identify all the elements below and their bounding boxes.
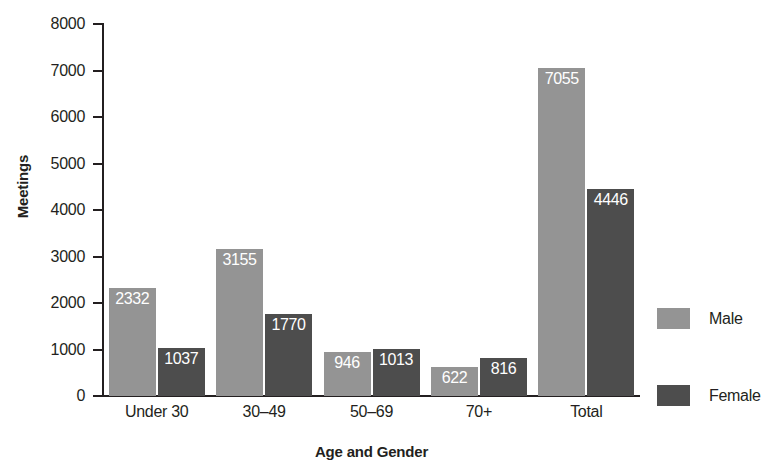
y-axis-tick bbox=[93, 302, 103, 304]
bar-value-label: 3155 bbox=[216, 251, 263, 268]
plot-area: 2332103731551770946101362281670554446 bbox=[103, 24, 640, 396]
bar: 2332 bbox=[109, 288, 156, 396]
x-axis-category-label: 30–49 bbox=[204, 403, 324, 421]
legend-item: Female bbox=[657, 385, 761, 406]
y-axis-tick bbox=[93, 23, 103, 25]
x-axis-title: Age and Gender bbox=[103, 443, 640, 460]
bar-value-label: 1013 bbox=[373, 351, 420, 368]
y-axis-tick-label: 6000 bbox=[5, 109, 85, 125]
y-axis-tick bbox=[93, 395, 103, 397]
y-axis-tick bbox=[93, 116, 103, 118]
y-axis-tick-label: 1000 bbox=[5, 342, 85, 358]
x-axis-category-label: 50–69 bbox=[312, 403, 432, 421]
x-axis-category-label: 70+ bbox=[419, 403, 539, 421]
bar: 7055 bbox=[538, 68, 585, 396]
bar-value-label: 816 bbox=[480, 360, 527, 377]
y-axis-tick bbox=[93, 349, 103, 351]
legend-swatch bbox=[657, 308, 690, 329]
bar: 622 bbox=[431, 367, 478, 396]
bar-value-label: 2332 bbox=[109, 290, 156, 307]
bar-chart: Meetings Age and Gender 0100020003000400… bbox=[0, 0, 763, 471]
bar: 816 bbox=[480, 358, 527, 396]
y-axis-tick-label: 8000 bbox=[5, 16, 85, 32]
y-axis-tick-label: 7000 bbox=[5, 63, 85, 79]
bar: 946 bbox=[324, 352, 371, 396]
y-axis-title: Meetings bbox=[14, 137, 31, 237]
bar: 1037 bbox=[158, 348, 205, 396]
bar: 4446 bbox=[587, 189, 634, 396]
bar-value-label: 1037 bbox=[158, 350, 205, 367]
x-axis-category-label: Under 30 bbox=[97, 403, 217, 421]
y-axis-tick-label: 3000 bbox=[5, 249, 85, 265]
legend-item: Male bbox=[657, 308, 742, 329]
y-axis-tick bbox=[93, 163, 103, 165]
bar-value-label: 1770 bbox=[265, 316, 312, 333]
bar-value-label: 7055 bbox=[538, 70, 585, 87]
bar-value-label: 622 bbox=[431, 369, 478, 386]
y-axis-tick bbox=[93, 70, 103, 72]
legend-label: Male bbox=[709, 310, 742, 328]
legend-label: Female bbox=[709, 387, 761, 405]
y-axis-tick bbox=[93, 256, 103, 258]
y-axis-tick-label: 4000 bbox=[5, 202, 85, 218]
bar-value-label: 4446 bbox=[587, 191, 634, 208]
bar: 1013 bbox=[373, 349, 420, 396]
x-axis-category-label: Total bbox=[526, 403, 646, 421]
y-axis-tick-label: 2000 bbox=[5, 295, 85, 311]
y-axis-tick-label: 0 bbox=[5, 388, 85, 404]
y-axis-tick-label: 5000 bbox=[5, 156, 85, 172]
legend-swatch bbox=[657, 385, 690, 406]
y-axis-tick bbox=[93, 209, 103, 211]
bar: 3155 bbox=[216, 249, 263, 396]
bar: 1770 bbox=[265, 314, 312, 396]
bar-value-label: 946 bbox=[324, 354, 371, 371]
